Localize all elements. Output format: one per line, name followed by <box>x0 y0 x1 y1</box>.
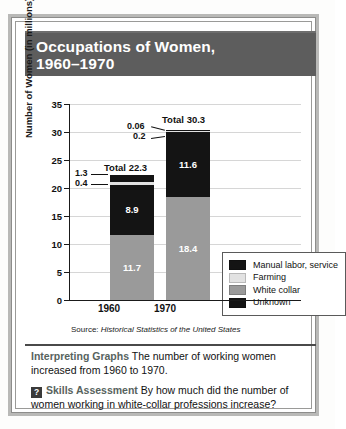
question-mark-icon: ? <box>31 387 42 398</box>
chart-legend: Manual labor, service Farming White coll… <box>222 252 346 316</box>
bar-1960-segment-unknown <box>110 175 154 182</box>
tick-30 <box>64 132 70 133</box>
plot-area: 35 30 25 20 15 10 5 0 8.9 <box>69 104 301 300</box>
legend-swatch-unknown <box>229 298 246 308</box>
page-title: Occupations of Women, 1960–1970 <box>25 33 316 72</box>
bar-1970[interactable]: 11.6 18.4 <box>166 130 210 300</box>
skills-assessment-paragraph: ?Skills Assessment By how much did the n… <box>25 384 316 412</box>
interpreting-graphs-lead: Interpreting Graphs <box>31 350 129 362</box>
legend-swatch-manual-labor <box>229 260 246 270</box>
skills-assessment-lead: Skills Assessment <box>46 384 138 396</box>
legend-label-manual-labor: Manual labor, service <box>253 260 338 271</box>
legend-item-unknown: Unknown <box>229 297 339 308</box>
bar-1970-label-manual: 11.6 <box>179 160 197 170</box>
ytick-label-10: 10 <box>51 239 62 250</box>
legend-swatch-white-collar <box>229 285 246 295</box>
section-divider <box>25 344 316 346</box>
ytick-label-35: 35 <box>51 99 62 110</box>
tick-15 <box>64 216 70 217</box>
ytick-label-15: 15 <box>51 211 62 222</box>
bar-1960-label-manual: 8.9 <box>125 205 138 215</box>
legend-label-unknown: Unknown <box>253 297 291 308</box>
panel-frame-inner: Occupations of Women, 1960–1970 Number o… <box>15 21 312 409</box>
bar-1960[interactable]: 8.9 11.7 <box>110 175 154 300</box>
title-line-1: Occupations of Women, <box>36 38 215 55</box>
legend-item-white-collar: White collar <box>229 285 339 296</box>
xtick-label-1970: 1970 <box>135 303 195 314</box>
chart-source: Source: Historical Statistics of the Uni… <box>71 325 240 334</box>
ytick-label-20: 20 <box>51 183 62 194</box>
bar-1960-segment-manual: 8.9 <box>110 185 154 235</box>
chart-area: Number of Women (in millions) <box>25 82 316 344</box>
leader-line-1960-farming <box>91 184 108 185</box>
text-block: Interpreting Graphs The number of workin… <box>25 350 316 419</box>
interpreting-graphs-paragraph: Interpreting Graphs The number of workin… <box>25 350 316 377</box>
leader-line-1970-unknown <box>151 126 165 130</box>
tick-20 <box>64 188 70 189</box>
bar-1960-segment-white-collar: 11.7 <box>110 235 154 301</box>
bar-1970-label-white-collar: 18.4 <box>179 244 198 254</box>
legend-item-farming: Farming <box>229 272 339 283</box>
source-title: Historical Statistics of the United Stat… <box>101 325 241 334</box>
tick-10 <box>64 244 70 245</box>
gridline-35 <box>70 104 301 105</box>
callout-1970-unknown: 0.06 <box>127 121 145 131</box>
legend-label-farming: Farming <box>253 272 286 283</box>
source-prefix: Source: <box>71 325 101 334</box>
ytick-label-5: 5 <box>57 267 62 278</box>
callout-1960-unknown: 1.3 <box>75 168 88 178</box>
callout-1970-farming: 0.2 <box>133 131 146 141</box>
title-line-2: 1960–1970 <box>36 55 114 72</box>
ytick-label-25: 25 <box>51 155 62 166</box>
legend-label-white-collar: White collar <box>253 285 300 296</box>
bar-1960-label-white-collar: 11.7 <box>123 263 141 273</box>
x-axis-line <box>69 300 301 301</box>
panel-title-bar: Occupations of Women, 1960–1970 <box>25 31 316 76</box>
panel-frame: Occupations of Women, 1960–1970 Number o… <box>8 14 319 416</box>
total-label-1970: Total 30.3 <box>162 114 205 125</box>
legend-item-manual-labor: Manual labor, service <box>229 260 339 271</box>
total-label-1960: Total 22.3 <box>104 162 147 173</box>
callout-1960-farming: 0.4 <box>75 178 88 188</box>
tick-5 <box>64 272 70 273</box>
y-axis-label: Number of Women (in millions) <box>23 0 34 138</box>
ytick-label-0: 0 <box>57 295 62 306</box>
legend-swatch-farming <box>229 273 246 283</box>
leader-line-1960-unknown <box>91 174 108 175</box>
bar-1970-segment-white-collar: 18.4 <box>166 197 210 300</box>
tick-35 <box>64 104 70 105</box>
xtick-label-1960: 1960 <box>79 303 139 314</box>
tick-25 <box>64 160 70 161</box>
leader-line-1970-farming <box>151 136 165 139</box>
ytick-label-30: 30 <box>51 127 62 138</box>
bar-1970-segment-manual: 11.6 <box>166 132 210 197</box>
